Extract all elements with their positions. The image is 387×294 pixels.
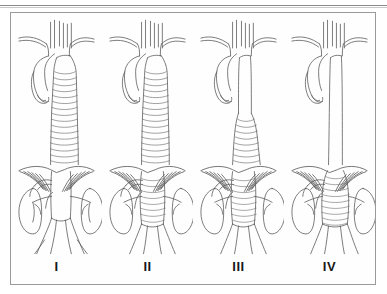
aorta-illustration-type-ii	[102, 13, 193, 259]
aorta-illustration-type-iii	[193, 13, 284, 259]
panel-row: I Aneurysm of descending thoracic aorta …	[11, 13, 375, 284]
crawford-type-iv-panel[interactable]: IV Aneurysm confined to the abdominal ao…	[284, 13, 375, 284]
crawford-type-iii-panel[interactable]: III Aneurysm from mid descending thoraci…	[193, 13, 284, 284]
crawford-type-ii-panel[interactable]: II Aneurysm from left subclavian artery …	[102, 13, 193, 284]
aorta-illustration-type-i	[11, 13, 102, 259]
crawford-type-i-panel[interactable]: I Aneurysm of descending thoracic aorta …	[11, 13, 102, 284]
panel-label-type-iii: III	[193, 259, 284, 274]
aorta-illustration-type-iv	[284, 13, 375, 259]
page-top-rule-secondary	[0, 7, 387, 8]
figure-frame: I Aneurysm of descending thoracic aorta …	[10, 12, 376, 285]
panel-label-type-ii: II	[102, 259, 193, 274]
panel-label-type-i: I	[11, 259, 102, 274]
page-top-rule	[0, 5, 387, 6]
panel-label-type-iv: IV	[284, 259, 375, 274]
